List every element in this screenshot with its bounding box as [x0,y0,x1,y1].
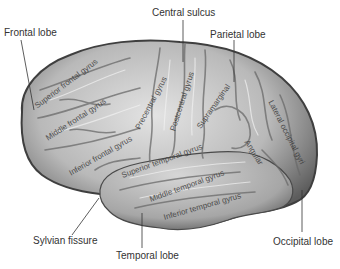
leader-sylvian [72,198,99,235]
label-occipital-lobe: Occipital lobe [273,237,333,247]
label-sylvian-fissure: Sylvian fissure [33,236,97,246]
label-central-sulcus: Central sulcus [152,8,215,18]
brain-diagram: Frontal lobe Central sulcus Parietal lob… [0,0,340,269]
label-temporal-lobe: Temporal lobe [116,251,179,261]
label-parietal-lobe: Parietal lobe [210,30,266,40]
label-frontal-lobe: Frontal lobe [4,28,57,38]
